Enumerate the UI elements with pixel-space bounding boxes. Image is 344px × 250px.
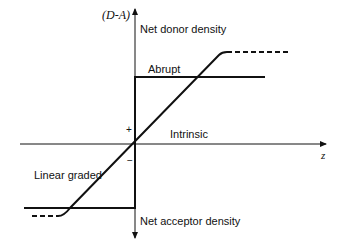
z-axis-label: z bbox=[321, 150, 325, 161]
y-axis-label: (D-A) bbox=[102, 9, 130, 21]
doping-profile-diagram bbox=[0, 0, 344, 250]
linear-graded-label: Linear graded bbox=[34, 170, 102, 181]
plus-sign: + bbox=[126, 125, 132, 135]
abrupt-profile bbox=[24, 77, 265, 208]
net-acceptor-density-label: Net acceptor density bbox=[140, 216, 240, 227]
net-donor-density-label: Net donor density bbox=[140, 24, 226, 35]
minus-sign: − bbox=[127, 156, 133, 166]
abrupt-label: Abrupt bbox=[148, 64, 180, 75]
intrinsic-label: Intrinsic bbox=[170, 129, 208, 140]
